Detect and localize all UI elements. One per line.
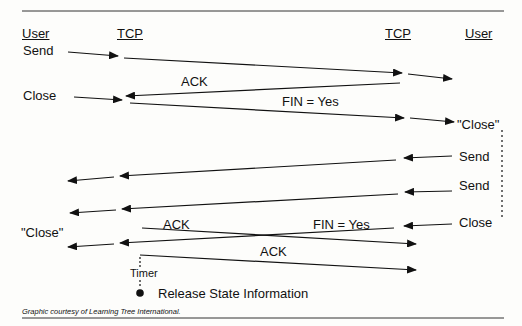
label-close-right: Close xyxy=(459,216,492,229)
header-left-tcp: TCP xyxy=(117,27,143,40)
header-left-user: User xyxy=(22,27,49,40)
label-ack-3: ACK xyxy=(260,245,287,258)
label-close-left: Close xyxy=(23,89,56,102)
header-right-user: User xyxy=(465,27,492,40)
label-fin-2: FIN = Yes xyxy=(313,218,370,231)
label-fin-1: FIN = Yes xyxy=(282,95,339,108)
release-dot xyxy=(136,289,144,297)
label-send-right-1: Send xyxy=(459,150,489,163)
credit-caption: Graphic courtesy of Learning Tree Intern… xyxy=(22,307,181,316)
label-close-quoted-left: "Close" xyxy=(21,226,63,239)
label-send-right-2: Send xyxy=(459,179,489,192)
sequence-diagram-lines xyxy=(0,0,522,326)
label-ack-1: ACK xyxy=(181,75,208,88)
header-right-tcp: TCP xyxy=(385,27,411,40)
label-ack-2: ACK xyxy=(163,218,190,231)
label-close-quoted-right: "Close" xyxy=(457,118,499,131)
label-send-left: Send xyxy=(23,44,53,57)
label-release-state: Release State Information xyxy=(158,287,308,300)
label-timer: Timer xyxy=(130,268,158,279)
